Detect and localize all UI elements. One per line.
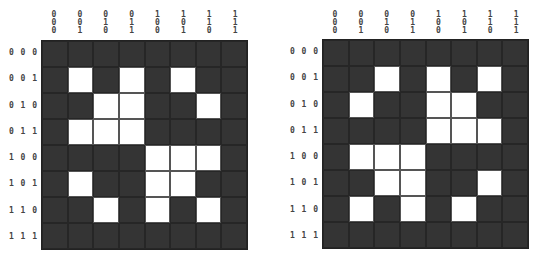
grid-cell	[170, 197, 196, 223]
grid-cell	[93, 145, 119, 171]
grid-cell	[426, 92, 452, 118]
grid-cell	[93, 119, 119, 145]
grid-cell	[93, 93, 119, 119]
row-label: 0 0 0	[281, 47, 319, 56]
row-label: 1 0 0	[281, 152, 319, 161]
grid-cell	[119, 171, 145, 197]
grid-cell	[68, 171, 94, 197]
grid-cell	[196, 41, 222, 67]
grid-cell	[145, 145, 171, 171]
grid-cell	[400, 196, 426, 222]
grid-cell	[400, 66, 426, 92]
grid-cell	[477, 144, 503, 170]
grid-cell	[374, 196, 400, 222]
grid-cell	[477, 170, 503, 196]
grid-cell	[42, 119, 68, 145]
grid-cell	[349, 196, 375, 222]
grid-cell	[426, 144, 452, 170]
grid-cell	[93, 197, 119, 223]
grid-cell	[119, 223, 145, 249]
grid-cell	[170, 223, 196, 249]
grid-cell	[502, 66, 528, 92]
grid-cell	[451, 92, 477, 118]
grid-cell	[400, 144, 426, 170]
grid-cell	[349, 40, 375, 66]
grid-cell	[502, 92, 528, 118]
grid-cell	[170, 171, 196, 197]
row-label: 0 0 1	[0, 74, 38, 83]
column-label: 1 0 1	[170, 11, 196, 35]
grid-cell	[119, 41, 145, 67]
column-label: 0 0 1	[348, 11, 374, 35]
grid-cell	[374, 66, 400, 92]
grid-cell	[451, 66, 477, 92]
grid-cell	[221, 223, 247, 249]
grid-cell	[93, 223, 119, 249]
grid-cell	[196, 119, 222, 145]
grid-cell	[323, 40, 349, 66]
column-label: 0 1 0	[93, 11, 119, 35]
grid-cell	[145, 67, 171, 93]
grid-cell	[323, 92, 349, 118]
grid-cell	[477, 222, 503, 248]
grid-cell	[221, 171, 247, 197]
grid-cell	[68, 145, 94, 171]
grid-cell	[93, 171, 119, 197]
grid-cell	[477, 40, 503, 66]
grid-cell	[349, 170, 375, 196]
grid-cell	[349, 118, 375, 144]
grid-cell	[221, 67, 247, 93]
grid-cell	[323, 222, 349, 248]
grid-cell	[119, 119, 145, 145]
grid-cell	[196, 67, 222, 93]
grid-cell	[42, 197, 68, 223]
grid-cell	[68, 67, 94, 93]
grid-cell	[502, 40, 528, 66]
grid-cell	[374, 222, 400, 248]
grid-cell	[374, 40, 400, 66]
column-label: 1 0 1	[451, 11, 477, 35]
grid-cell	[68, 41, 94, 67]
grid-cell	[400, 92, 426, 118]
grid-cell	[42, 41, 68, 67]
grid-cell	[119, 145, 145, 171]
grid-cell	[221, 145, 247, 171]
grid-cell	[221, 119, 247, 145]
grid-cell	[221, 41, 247, 67]
grid-cell	[145, 223, 171, 249]
grid-cell	[170, 145, 196, 171]
grid-cell	[374, 170, 400, 196]
grid-cell	[451, 222, 477, 248]
grid-cell	[400, 222, 426, 248]
grid-cell	[196, 145, 222, 171]
grid-cell	[349, 66, 375, 92]
grid-cell	[170, 119, 196, 145]
grid-cell	[170, 41, 196, 67]
grid-cell	[451, 144, 477, 170]
column-label: 1 1 1	[222, 11, 248, 35]
row-label: 1 1 1	[0, 232, 38, 241]
grid-cell	[349, 92, 375, 118]
column-label: 1 0 0	[144, 11, 170, 35]
grid-cell	[323, 144, 349, 170]
grid-cell	[426, 196, 452, 222]
row-label: 1 1 1	[281, 231, 319, 240]
grid-cell	[119, 93, 145, 119]
grid-cell	[170, 67, 196, 93]
grid-cell	[323, 170, 349, 196]
column-label: 0 1 0	[374, 11, 400, 35]
grid-cell	[93, 41, 119, 67]
left-panel: 0 0 00 0 10 1 00 1 11 0 01 0 11 1 01 1 1…	[0, 0, 272, 260]
grid-cell	[426, 170, 452, 196]
grid-cell	[477, 92, 503, 118]
grid-cell	[374, 144, 400, 170]
row-label: 1 1 0	[281, 205, 319, 214]
row-label: 1 0 1	[0, 179, 38, 188]
grid-cell	[502, 222, 528, 248]
grid-cell	[196, 197, 222, 223]
grid-cell	[221, 93, 247, 119]
grid-cell	[400, 118, 426, 144]
grid-cell	[93, 67, 119, 93]
grid-cell	[502, 118, 528, 144]
grid-cell	[196, 223, 222, 249]
